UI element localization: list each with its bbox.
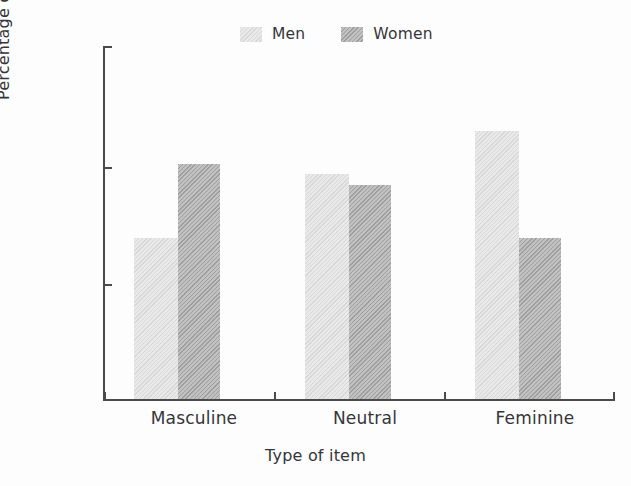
bar-neutral-women bbox=[349, 185, 391, 399]
x-category-label-masculine: Masculine bbox=[114, 408, 274, 428]
x-tick-separator-1 bbox=[274, 392, 276, 401]
legend-label-men: Men bbox=[272, 25, 305, 43]
x-axis-line bbox=[103, 399, 615, 401]
y-axis-title-wrap: Percentage conforming bbox=[0, 0, 13, 120]
x-tick-separator-2 bbox=[444, 392, 446, 401]
bar-chart: Men Women 50 40 30 20 Percentage conform… bbox=[0, 0, 631, 486]
bar-masculine-women bbox=[178, 164, 220, 399]
x-axis-title: Type of item bbox=[0, 446, 631, 465]
legend-item-men: Men bbox=[240, 25, 305, 43]
bar-feminine-men bbox=[475, 131, 519, 399]
legend-swatch-women-icon bbox=[341, 27, 363, 42]
y-axis-title: Percentage conforming bbox=[0, 0, 13, 100]
legend-swatch-men-icon bbox=[240, 27, 262, 42]
x-category-label-feminine: Feminine bbox=[455, 408, 615, 428]
x-category-label-neutral: Neutral bbox=[285, 408, 445, 428]
bar-feminine-women bbox=[519, 238, 561, 399]
legend-label-women: Women bbox=[373, 25, 432, 43]
bar-neutral-men bbox=[305, 174, 349, 399]
bars-layer bbox=[103, 47, 615, 399]
x-tick-separator-0 bbox=[104, 392, 106, 401]
bar-masculine-men bbox=[134, 238, 178, 399]
chart-legend: Men Women bbox=[240, 22, 433, 46]
legend-item-women: Women bbox=[341, 25, 432, 43]
